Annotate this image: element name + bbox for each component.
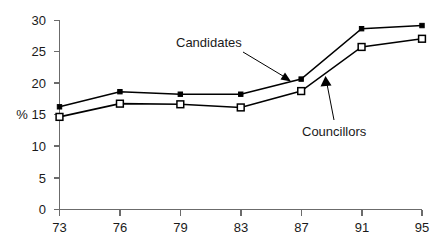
data-point-marker: [117, 100, 124, 107]
y-tick-label: 20: [32, 76, 46, 91]
data-point-marker: [57, 105, 61, 109]
data-point-marker: [298, 88, 305, 95]
data-point-marker: [358, 44, 365, 51]
data-point-marker: [419, 35, 426, 42]
y-tick-label: 25: [32, 44, 46, 59]
data-point-marker: [237, 104, 244, 111]
x-tick-label: 79: [173, 220, 187, 235]
chart-figure: 30 25 20 15 10 5 0 % 73 76 79 83 87 9: [0, 0, 439, 250]
data-point-marker: [299, 77, 303, 81]
x-tick-label: 83: [234, 220, 248, 235]
data-point-marker: [56, 113, 63, 120]
x-tick-label: 87: [294, 220, 308, 235]
annotation-label-councillors: Councillors: [302, 124, 367, 139]
annotation-label-candidates: Candidates: [176, 35, 242, 50]
y-tick-label: 0: [39, 202, 46, 217]
x-tick-label: 76: [113, 220, 127, 235]
x-axis-ticks: [60, 210, 423, 216]
data-point-marker: [118, 89, 122, 93]
x-axis-tick-labels: 73 76 79 83 87 91 95: [52, 220, 429, 235]
x-tick-label: 91: [355, 220, 369, 235]
y-tick-label: 15: [32, 107, 46, 122]
line-chart-canvas: 30 25 20 15 10 5 0 % 73 76 79 83 87 9: [0, 0, 439, 250]
arrowhead-icon: [281, 73, 292, 82]
annotation-councillors: Councillors: [302, 76, 367, 139]
data-point-marker: [359, 26, 363, 30]
data-point-marker: [178, 92, 182, 96]
y-axis-title: %: [16, 107, 28, 122]
annotation-candidates: Candidates: [176, 35, 291, 82]
data-point-marker: [239, 92, 243, 96]
y-tick-label: 5: [39, 171, 46, 186]
y-axis-tick-labels: 30 25 20 15 10 5 0: [32, 13, 46, 217]
arrowhead-icon: [321, 76, 332, 87]
y-tick-label: 30: [32, 13, 46, 28]
data-point-marker: [420, 23, 424, 27]
x-tick-label: 95: [415, 220, 429, 235]
x-tick-label: 73: [52, 220, 66, 235]
y-tick-label: 10: [32, 139, 46, 154]
data-point-marker: [177, 101, 184, 108]
